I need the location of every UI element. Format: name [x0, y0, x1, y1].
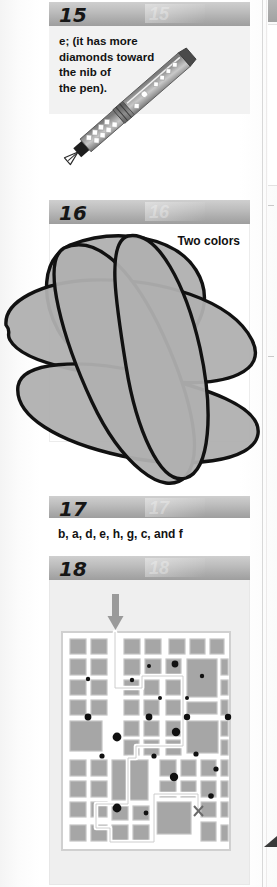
- answer-text-16: Two colors: [178, 234, 240, 248]
- section-body-18: [49, 580, 250, 885]
- next-column-card-stub: [268, 24, 277, 186]
- answer-section-18: 18 18: [49, 556, 250, 885]
- section-number-16: 16: [59, 201, 87, 224]
- answer-key-page: 15 15 e; (it has more diamonds toward th…: [0, 0, 277, 887]
- section-number-18: 18: [59, 557, 87, 580]
- column-divider-rule: [262, 0, 263, 887]
- answer-text-17: b, a, d, e, h, g, c, and f: [49, 518, 250, 543]
- header-glint-15: 15: [145, 4, 205, 23]
- header-glint-17: 17: [145, 498, 205, 517]
- maze-entry-arrow: [108, 594, 124, 630]
- city-block-maze-illustration: [50, 580, 251, 885]
- section-header-16: 16 16: [49, 200, 250, 224]
- section-number-15: 15: [59, 3, 87, 26]
- answer-section-17: 17 17 b, a, d, e, h, g, c, and f: [49, 496, 250, 554]
- corner-wedge-mark: [264, 836, 277, 847]
- section-body-17: b, a, d, e, h, g, c, and f: [49, 518, 250, 554]
- gutter-tick-1: [268, 205, 274, 206]
- gutter-tick-2: [268, 356, 274, 357]
- next-column-header-stub: [268, 0, 277, 22]
- answer-section-15: 15 15 e; (it has more diamonds toward th…: [49, 2, 250, 114]
- section-number-17: 17: [59, 497, 87, 518]
- section-body-16: Two colors: [49, 224, 250, 442]
- header-glint-16: 16: [145, 202, 205, 221]
- section-header-18: 18 18: [49, 556, 250, 580]
- column-divider-rule-secondary: [266, 0, 267, 887]
- answer-text-15: e; (it has more diamonds toward the nib …: [49, 26, 250, 96]
- section-header-17: 17 17: [49, 496, 250, 518]
- section-body-15: e; (it has more diamonds toward the nib …: [49, 26, 250, 114]
- header-glint-18: 18: [145, 558, 205, 577]
- section-header-15: 15 15: [49, 2, 250, 26]
- answer-section-16: 16 16 Two colors: [49, 200, 250, 442]
